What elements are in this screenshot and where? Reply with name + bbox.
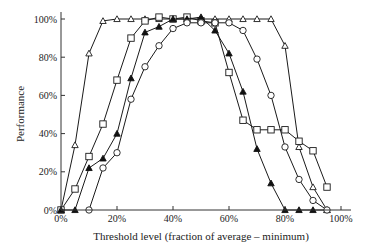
square-open-marker	[226, 69, 232, 75]
y-axis-title: Performance	[14, 86, 26, 142]
y-tick-label: 40%	[39, 128, 57, 139]
circle-open-marker	[254, 56, 260, 62]
square-open-marker	[268, 127, 274, 133]
triangle-filled-marker	[156, 23, 162, 29]
square-open-marker	[142, 18, 148, 24]
triangle-filled-marker	[268, 180, 274, 186]
series-open-square	[58, 14, 330, 213]
x-tick-label: 0%	[54, 213, 67, 224]
x-tick-label: 60%	[220, 213, 238, 224]
circle-open-marker	[226, 20, 232, 26]
circle-open-marker	[156, 43, 162, 49]
square-open-marker	[240, 117, 246, 123]
x-tick-label: 100%	[329, 213, 352, 224]
circle-open-marker	[212, 20, 218, 26]
performance-threshold-chart: 0%20%40%60%80%100% 0%20%40%60%80%100% Th…	[0, 0, 369, 249]
square-open-marker	[86, 153, 92, 159]
x-tick-label: 80%	[276, 213, 294, 224]
square-open-marker	[156, 14, 162, 20]
circle-open-marker	[240, 27, 246, 33]
series-line	[89, 23, 327, 210]
circle-open-marker	[142, 64, 148, 70]
y-tick-label: 20%	[39, 166, 57, 177]
circle-open-marker	[296, 176, 302, 182]
square-open-marker	[254, 127, 260, 133]
triangle-open-marker	[72, 142, 78, 148]
triangle-filled-marker	[128, 75, 134, 81]
series-open-triangle	[58, 16, 330, 213]
series-open-circle	[86, 20, 330, 214]
square-open-marker	[128, 35, 134, 41]
circle-open-marker	[100, 165, 106, 171]
triangle-filled-marker	[226, 50, 232, 56]
circle-open-marker	[170, 25, 176, 31]
circle-open-marker	[128, 96, 134, 102]
triangle-open-marker	[310, 184, 316, 190]
y-tick-label: 100%	[34, 14, 57, 25]
square-open-marker	[72, 186, 78, 192]
circle-open-marker	[310, 197, 316, 203]
triangle-filled-marker	[142, 29, 148, 35]
circle-open-marker	[184, 20, 190, 26]
square-open-marker	[282, 127, 288, 133]
square-open-marker	[324, 184, 330, 190]
plot-area	[58, 14, 330, 213]
triangle-filled-marker	[114, 130, 120, 136]
circle-open-marker	[282, 144, 288, 150]
triangle-filled-marker	[198, 14, 204, 20]
square-open-marker	[310, 148, 316, 154]
circle-open-marker	[198, 20, 204, 26]
axes	[61, 12, 351, 210]
x-ticks: 0%20%40%60%80%100%	[54, 206, 352, 224]
x-tick-label: 40%	[164, 213, 182, 224]
square-open-marker	[100, 121, 106, 127]
square-open-marker	[296, 138, 302, 144]
y-tick-label: 80%	[39, 52, 57, 63]
y-tick-label: 60%	[39, 90, 57, 101]
triangle-filled-marker	[254, 146, 260, 152]
triangle-open-marker	[282, 43, 288, 49]
y-ticks: 0%20%40%60%80%100%	[34, 14, 65, 216]
circle-open-marker	[114, 150, 120, 156]
x-tick-label: 20%	[108, 213, 126, 224]
x-axis-title: Threshold level (fraction of average – m…	[93, 230, 309, 243]
triangle-filled-marker	[240, 88, 246, 94]
triangle-open-marker	[86, 50, 92, 56]
circle-open-marker	[268, 92, 274, 98]
triangle-filled-marker	[100, 155, 106, 161]
square-open-marker	[114, 77, 120, 83]
triangle-filled-marker	[86, 165, 92, 171]
series-filled-triangle	[58, 14, 330, 213]
